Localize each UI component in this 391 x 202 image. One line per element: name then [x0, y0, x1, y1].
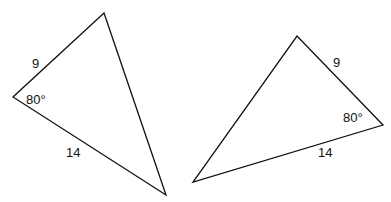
right-angle-80: 80°	[343, 111, 363, 124]
right-triangle	[193, 36, 383, 182]
right-side-length-9: 9	[333, 56, 340, 69]
left-angle-80: 80°	[26, 93, 46, 106]
left-side-length-14: 14	[66, 146, 80, 159]
right-side-length-14: 14	[318, 146, 332, 159]
diagram-canvas	[0, 0, 391, 202]
left-side-length-9: 9	[32, 57, 39, 70]
